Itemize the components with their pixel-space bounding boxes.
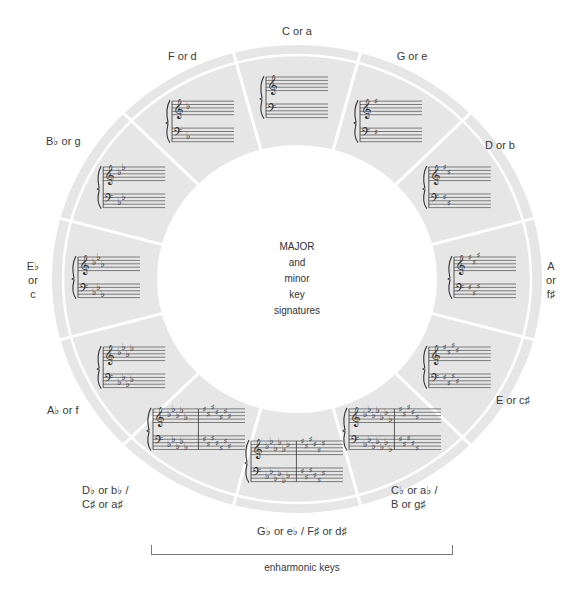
label-line: B or g♯ — [391, 497, 437, 511]
caption-line: minor — [274, 271, 320, 287]
flat-icon: ♭ — [186, 101, 190, 111]
flat-icon: ♭ — [286, 470, 290, 480]
label-eflat-major-c-minor: E♭ or c — [27, 259, 40, 301]
caption-line: and — [274, 255, 320, 271]
flat-icon: ♭ — [100, 289, 104, 299]
bass-clef-icon: 𝄢 — [267, 101, 276, 117]
flat-icon: ♭ — [184, 412, 188, 422]
sharp-icon: ♯ — [455, 377, 459, 386]
sharp-icon: ♯ — [447, 199, 451, 208]
sharp-icon: ♯ — [321, 469, 325, 478]
flat-icon: ♭ — [186, 131, 190, 141]
flat-icon: ♭ — [286, 439, 290, 449]
label-line: or — [27, 273, 40, 287]
label-line: C♭ or a♭ / — [391, 483, 437, 497]
label-line: B♭ or g — [46, 134, 81, 148]
sharp-icon: ♯ — [374, 97, 378, 106]
label-a-major-fsharp-minor: A or f♯ — [546, 259, 556, 301]
flat-icon: ♭ — [388, 444, 392, 454]
caption-line: key — [274, 287, 320, 303]
sharp-icon: ♯ — [228, 442, 232, 451]
label-cflat-b-major: C♭ or a♭ / B or g♯ — [391, 483, 437, 511]
sharp-icon: ♯ — [415, 413, 419, 422]
label-g-major-e-minor: G or e — [397, 49, 428, 63]
bass-clef-icon: 𝄢 — [104, 371, 113, 387]
enharmonic-keys-label: enharmonic keys — [264, 562, 340, 573]
label-line: A — [546, 259, 556, 273]
flat-icon: ♭ — [121, 162, 125, 172]
bass-clef-icon: 𝄢 — [430, 191, 439, 207]
flat-icon: ♭ — [130, 374, 134, 384]
bass-clef-icon: 𝄢 — [173, 125, 182, 141]
label-line: C♯ or a♯ — [82, 497, 128, 511]
label-line: or — [546, 273, 556, 287]
bass-clef-icon: 𝄢 — [104, 191, 113, 207]
flat-icon: ♭ — [388, 414, 392, 424]
center-caption: MAJOR and minor key signatures — [274, 239, 320, 319]
label-f-major-d-minor: F or d — [168, 49, 197, 63]
enharmonic-bracket — [151, 545, 453, 555]
flat-icon: ♭ — [100, 259, 104, 269]
label-line: D♭ or b♭ / — [82, 483, 128, 497]
bass-clef-icon: 𝄢 — [252, 465, 261, 481]
sharp-icon: ♯ — [447, 168, 451, 177]
caption-line: signatures — [274, 303, 320, 319]
sharp-icon: ♯ — [228, 412, 232, 421]
sharp-icon: ♯ — [374, 128, 378, 137]
label-line: E or c♯ — [496, 393, 530, 407]
label-aflat-major-f-minor: A♭ or f — [47, 403, 78, 417]
flat-icon: ♭ — [184, 442, 188, 452]
label-line: F or d — [168, 49, 197, 63]
label-d-major-b-minor: D or b — [485, 138, 515, 152]
caption-line: MAJOR — [274, 239, 320, 255]
label-line: f♯ — [546, 287, 556, 301]
label-line: G or e — [397, 49, 428, 63]
label-line: A♭ or f — [47, 403, 78, 417]
bass-clef-icon: 𝄢 — [79, 281, 88, 297]
label-line: c — [27, 287, 40, 301]
bass-clef-icon: 𝄢 — [430, 371, 439, 387]
label-line: E♭ — [27, 259, 40, 273]
sharp-icon: ♯ — [455, 346, 459, 355]
bass-clef-icon: 𝄢 — [455, 281, 464, 297]
bass-clef-icon: 𝄢 — [361, 125, 370, 141]
label-bflat-major-g-minor: B♭ or g — [46, 134, 81, 148]
label-line: C or a — [282, 24, 312, 38]
label-c-major-a-minor: C or a — [282, 24, 312, 38]
bass-clef-icon: 𝄢 — [350, 433, 359, 449]
flat-icon: ♭ — [121, 192, 125, 202]
sharp-icon: ♯ — [476, 282, 480, 291]
label-gflat-fsharp-major: G♭ or e♭ / F♯ or d♯ — [257, 524, 347, 538]
label-dflat-csharp-major: D♭ or b♭ / C♯ or a♯ — [82, 483, 128, 511]
sharp-icon: ♯ — [476, 251, 480, 260]
sharp-icon: ♯ — [321, 439, 325, 448]
label-line: G♭ or e♭ / F♯ or d♯ — [257, 524, 347, 538]
flat-icon: ♭ — [130, 343, 134, 353]
bass-clef-icon: 𝄢 — [154, 433, 163, 449]
label-e-major-csharp-minor: E or c♯ — [496, 393, 530, 407]
label-line: D or b — [485, 138, 515, 152]
sharp-icon: ♯ — [415, 444, 419, 453]
